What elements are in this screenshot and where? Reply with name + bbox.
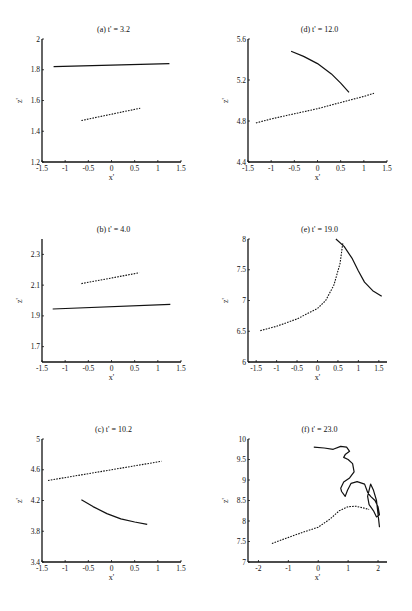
x-axis-label: x' [315,173,321,182]
series-solid [81,500,147,525]
x-tick-label: -1 [285,564,291,573]
x-axis-label: x' [109,173,115,182]
chart-f: (f) t' = 23.0-2-101277.588.599.510x'z' [206,400,412,611]
x-tick-label: -0.5 [291,364,303,373]
x-tick-label: -0.5 [82,564,94,573]
y-tick-label: 5.2 [237,76,247,85]
y-tick-label: 1.2 [31,158,41,167]
y-axis-label: z' [15,297,24,303]
y-tick-label: 8 [242,517,246,526]
y-axis-label: z' [15,97,24,103]
x-tick-label: 2 [376,564,380,573]
y-axis-label: z' [221,497,230,503]
x-tick-label: 1 [156,164,160,173]
y-tick-label: 1.7 [31,342,41,351]
x-tick-label: -1 [268,164,274,173]
x-tick-label: 1 [346,564,350,573]
x-axis-label: x' [109,573,115,582]
y-tick-label: 6 [242,358,246,367]
x-tick-label: 0.5 [333,364,343,373]
x-tick-label: -1 [273,364,279,373]
y-tick-label: 7 [242,558,246,567]
chart-title: (f) t' = 23.0 [301,425,337,434]
x-tick-label: 0 [110,564,114,573]
panel-c: (c) t' = 10.2-1.5-1-0.500.511.53.43.84.2… [0,400,206,611]
panel-d: (d) t' = 12.0-1.5-1-0.500.511.54.44.85.2… [206,0,412,200]
y-tick-label: 5.6 [237,35,247,44]
chart-title: (e) t' = 19.0 [301,225,338,234]
x-tick-label: -1.5 [250,364,262,373]
series-dotted [81,273,139,284]
x-tick-label: 1 [156,564,160,573]
panel-f: (f) t' = 23.0-2-101277.588.599.510x'z' [206,400,412,611]
series-dotted [48,461,162,480]
x-tick-label: -0.5 [82,364,94,373]
y-tick-label: 2.1 [31,281,41,290]
x-tick-label: 1.5 [176,164,186,173]
chart-b: (b) t' = 4.0-1.5-1-0.500.511.51.71.92.12… [0,200,206,400]
x-axis-label: x' [315,373,321,382]
x-tick-label: 0.5 [336,164,346,173]
x-tick-label: 0 [316,564,320,573]
x-tick-label: -1 [62,564,68,573]
chart-title: (c) t' = 10.2 [95,425,132,434]
y-tick-label: 1.4 [31,127,41,136]
x-tick-label: 0.5 [130,364,140,373]
y-tick-label: 7 [242,296,246,305]
y-tick-label: 6.5 [237,327,247,336]
series-solid [54,64,170,67]
x-tick-label: 1 [357,364,361,373]
x-tick-label: 1.5 [374,364,384,373]
y-tick-label: 9 [242,476,246,485]
x-tick-label: 0 [316,364,320,373]
series-dotted [256,93,374,123]
y-tick-label: 1.8 [31,65,41,74]
y-tick-label: 2 [36,35,40,44]
y-axis-label: z' [221,97,230,103]
x-tick-label: 0.5 [130,164,140,173]
x-tick-label: -1.5 [36,364,48,373]
chart-c: (c) t' = 10.2-1.5-1-0.500.511.53.43.84.2… [0,400,206,611]
panel-a: (a) t' = 3.2-1.5-1-0.500.511.51.21.41.61… [0,0,206,200]
x-tick-label: 0 [110,364,114,373]
chart-d: (d) t' = 12.0-1.5-1-0.500.511.54.44.85.2… [206,0,412,200]
x-tick-label: 1.5 [382,164,392,173]
x-tick-label: 1.5 [176,564,186,573]
series-solid [336,239,382,296]
y-tick-label: 8.5 [237,496,247,505]
chart-title: (b) t' = 4.0 [97,225,131,234]
y-tick-label: 2.3 [31,250,41,259]
y-tick-label: 1.6 [31,96,41,105]
y-tick-label: 10 [239,435,247,444]
y-tick-label: 4.2 [31,496,41,505]
y-tick-label: 7.5 [237,265,247,274]
chart-title: (d) t' = 12.0 [301,25,339,34]
series-solid [291,51,349,92]
x-tick-label: -1 [62,364,68,373]
x-tick-label: 0 [110,164,114,173]
y-tick-label: 4.4 [237,158,247,167]
y-tick-label: 7.5 [237,537,247,546]
y-tick-label: 3.4 [31,558,41,567]
y-tick-label: 3.8 [31,527,41,536]
chart-title: (a) t' = 3.2 [97,25,130,34]
x-axis-label: x' [315,573,321,582]
x-tick-label: -0.5 [288,164,300,173]
series-solid [53,304,171,309]
chart-e: (e) t' = 19.0-1.5-1-0.500.511.566.577.58… [206,200,412,400]
x-tick-label: -0.5 [82,164,94,173]
y-tick-label: 9.5 [237,455,247,464]
x-axis-label: x' [109,373,115,382]
y-tick-label: 8 [242,235,246,244]
y-axis-label: z' [15,497,24,503]
panel-e: (e) t' = 19.0-1.5-1-0.500.511.566.577.58… [206,200,412,400]
y-tick-label: 5 [36,435,40,444]
x-tick-label: 1 [362,164,366,173]
y-tick-label: 4.8 [237,117,247,126]
series-dotted [272,506,369,543]
y-axis-label: z' [221,297,230,303]
x-tick-label: -2 [255,564,261,573]
y-tick-label: 1.9 [31,311,41,320]
x-tick-label: 0 [316,164,320,173]
chart-a: (a) t' = 3.2-1.5-1-0.500.511.51.21.41.61… [0,0,206,200]
